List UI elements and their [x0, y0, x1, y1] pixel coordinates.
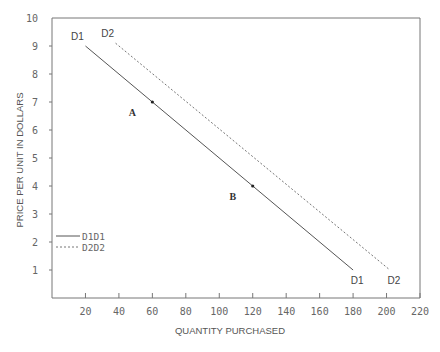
x-tick-label: 200 [378, 306, 396, 317]
legend: D1D1 D2D2 [56, 231, 105, 253]
y-tick-label: 4 [32, 181, 38, 192]
x-tick-label: 180 [344, 306, 362, 317]
y-tick-label: 3 [32, 209, 38, 220]
x-tick-label: 100 [210, 306, 228, 317]
y-tick-label: 6 [32, 125, 38, 136]
x-axis-ticks: 20406080100120140160180200220 [79, 293, 429, 317]
y-tick-label: 5 [32, 153, 38, 164]
x-tick-label: 140 [277, 306, 295, 317]
y-tick-label: 1 [32, 265, 38, 276]
x-tick-label: 80 [180, 306, 192, 317]
curve-start-label: D2 [101, 28, 114, 39]
demand-curve-chart: 12345678910 2040608010012014016018020022… [0, 0, 440, 352]
point-marker [151, 100, 154, 103]
x-tick-label: 20 [79, 306, 91, 317]
y-tick-label: 7 [32, 97, 38, 108]
x-tick-label: 160 [311, 306, 329, 317]
series-layer: D1D1D2D2 [71, 28, 401, 286]
x-tick-label: 60 [146, 306, 158, 317]
x-axis-title: QUANTITY PURCHASED [175, 325, 285, 336]
y-tick-label: 2 [32, 237, 38, 248]
plot-frame [52, 18, 420, 298]
point-label-b: B [229, 191, 236, 202]
annotation-layer: AB [129, 100, 255, 202]
y-axis-ticks: 12345678910 [26, 13, 52, 276]
point-label-a: A [129, 107, 137, 118]
y-tick-label: 9 [32, 41, 38, 52]
x-tick-label: 40 [113, 306, 125, 317]
series-line-d1d1 [85, 46, 353, 270]
curve-start-label: D1 [71, 31, 84, 42]
curve-end-label: D2 [387, 275, 400, 286]
series-line-d2d2 [116, 43, 390, 270]
y-tick-label: 8 [32, 69, 38, 80]
y-axis-title: PRICE PER UNIT IN DOLLARS [14, 93, 25, 228]
y-tick-label: 10 [26, 13, 38, 24]
point-marker [251, 184, 254, 187]
curve-end-label: D1 [351, 275, 364, 286]
x-tick-label: 220 [411, 306, 429, 317]
legend-label-d1d1: D1D1 [82, 231, 105, 242]
x-tick-label: 120 [244, 306, 262, 317]
legend-label-d2d2: D2D2 [82, 242, 105, 253]
